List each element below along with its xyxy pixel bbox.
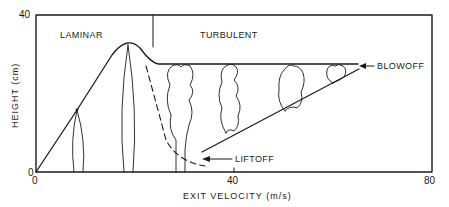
- liftoff-dashed-curve: [146, 66, 205, 166]
- y-axis-title: HEIGHT (cm): [11, 63, 20, 128]
- turbulent-flame-1: [167, 65, 193, 172]
- region-label-turbulent: TURBULENT: [200, 31, 258, 40]
- x-tick-label-80: 80: [424, 176, 435, 186]
- y-tick-label-40: 40: [19, 10, 30, 20]
- region-label-laminar: LAMINAR: [60, 31, 103, 40]
- blowoff-arrowhead-icon: [359, 63, 366, 69]
- laminar-flame-small: [73, 110, 84, 172]
- turbulent-flame-4: [327, 65, 346, 84]
- turbulent-flame-2: [219, 64, 240, 133]
- liftoff-arrowhead-icon: [202, 156, 210, 162]
- x-tick-label-0: 0: [32, 176, 38, 186]
- flame-regime-diagram: LAMINAR TURBULENT BLOWOFF LIFTOFF 40 0 0…: [0, 0, 449, 207]
- annotation-liftoff: LIFTOFF: [235, 155, 274, 164]
- laminar-flame-small-tip: [76, 109, 79, 112]
- annotation-blowoff: BLOWOFF: [377, 62, 424, 71]
- x-tick-label-40: 40: [227, 176, 238, 186]
- flame-height-curve: [36, 43, 358, 172]
- laminar-flame-tall: [122, 45, 135, 172]
- x-axis-title: EXIT VELOCITY (m/s): [183, 192, 292, 201]
